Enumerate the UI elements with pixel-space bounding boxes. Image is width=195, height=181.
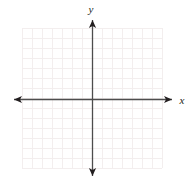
coordinate-plane-figure: y x [0, 0, 195, 181]
y-axis-label: y [88, 3, 94, 15]
coordinate-plane-svg: y x [0, 0, 195, 181]
x-axis-label: x [179, 94, 185, 106]
